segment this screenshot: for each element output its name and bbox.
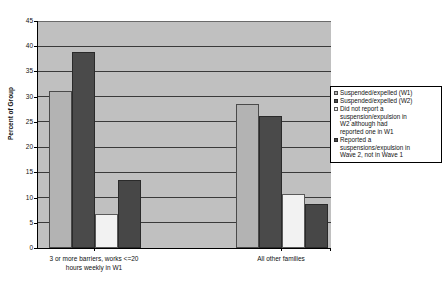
y-axis-tick-label: 35 [26,68,33,74]
x-axis-category-label: 3 or more barriers, works <=20hours week… [24,255,164,272]
legend-item-label: Reported asuspensions/expulsion inWave 2… [340,136,410,159]
legend-item: Reported asuspensions/expulsion inWave 2… [333,136,439,159]
bar [305,204,328,248]
x-axis-tick-mark [94,248,95,251]
chart-figure: 051015202530354045 Percent of Group 3 or… [0,0,445,281]
legend-item: Suspended/expelled (W1) [333,89,439,97]
legend-item-label: Did not report asuspension/expulsion inW… [340,105,407,135]
y-axis-tick-label: 20 [26,144,33,150]
y-axis-tick-label: 5 [29,220,33,226]
plot-area [37,21,331,249]
bar [49,91,72,248]
y-axis-tick-label: 45 [26,18,33,24]
y-axis-tick-label: 30 [26,94,33,100]
y-axis-tick-label: 15 [26,169,33,175]
bar [72,52,95,248]
bar [282,194,305,248]
y-axis-title: Percent of Group [7,74,14,154]
y-axis-tick-label: 25 [26,119,33,125]
legend-item: Did not report asuspension/expulsion inW… [333,105,439,135]
bar [95,214,118,248]
legend-swatch-icon [334,107,338,111]
gridline [38,46,331,47]
y-axis-tick-label: 40 [26,43,33,49]
y-axis-tick-label: 0 [29,245,33,251]
legend-swatch-icon [334,138,338,142]
bar [259,116,282,248]
x-axis-category-label: All other families [211,255,351,264]
legend-item-label: Suspended/expelled (W2) [340,97,412,105]
gridline [38,21,331,22]
legend-swatch-icon [334,99,338,103]
legend-item-label: Suspended/expelled (W1) [340,89,412,97]
legend-swatch-icon [334,91,338,95]
x-axis-tick-mark [281,248,282,251]
x-axis-tick-mark [330,248,331,251]
y-axis-tick-label: 10 [26,195,33,201]
bar [118,180,141,248]
chart-legend: Suspended/expelled (W1)Suspended/expelle… [330,86,442,163]
bar [236,104,259,248]
legend-item: Suspended/expelled (W2) [333,97,439,105]
